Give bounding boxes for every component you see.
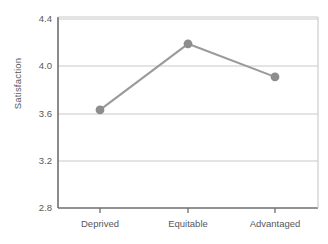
plot-area xyxy=(0,0,328,244)
series-markers xyxy=(96,39,280,114)
data-point-advantaged xyxy=(271,72,280,81)
series-line-satisfaction xyxy=(100,44,275,110)
line-chart: Satisfaction 4.4 4.0 3.6 3.2 2.8 Deprive… xyxy=(0,0,328,244)
data-point-deprived xyxy=(96,106,105,115)
data-point-equitable xyxy=(184,39,193,48)
